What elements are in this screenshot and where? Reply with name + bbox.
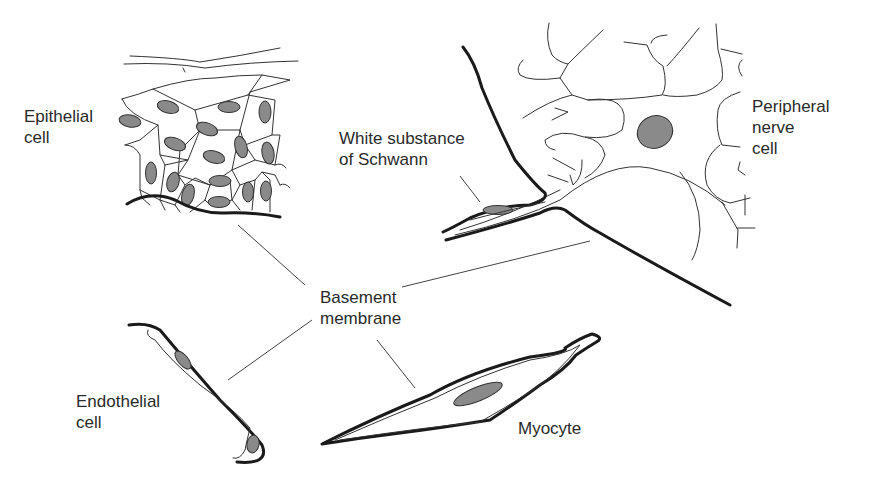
label-nerve-line1: Peripheral <box>752 96 830 117</box>
label-nerve-line2: nerve <box>752 117 830 138</box>
label-schwann-line1: White substance <box>339 128 465 149</box>
label-epithelial-cell: Epithelial cell <box>24 106 93 148</box>
label-epithelial-line2: cell <box>24 127 93 148</box>
label-endothelial-cell: Endothelial cell <box>76 391 160 433</box>
label-white-substance-of-schwann: White substance of Schwann <box>339 128 465 170</box>
label-endothelial-line1: Endothelial <box>76 391 160 412</box>
label-myocyte-line1: Myocyte <box>518 418 581 439</box>
label-endothelial-line2: cell <box>76 412 160 433</box>
label-basement-line1: Basement <box>320 287 401 308</box>
nerve-cell-drawing <box>443 23 755 305</box>
epithelial-cell-drawing <box>118 48 298 217</box>
label-basement-line2: membrane <box>320 308 401 329</box>
diagram-canvas: Epithelial cell White substance of Schwa… <box>0 0 872 483</box>
label-schwann-line2: of Schwann <box>339 149 465 170</box>
label-epithelial-line1: Epithelial <box>24 106 93 127</box>
label-peripheral-nerve-cell: Peripheral nerve cell <box>752 96 830 159</box>
label-basement-membrane: Basement membrane <box>320 287 401 329</box>
label-nerve-line3: cell <box>752 138 830 159</box>
label-myocyte: Myocyte <box>518 418 581 439</box>
